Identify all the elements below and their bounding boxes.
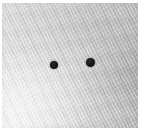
surface-dot-right [86, 58, 95, 67]
margin-top [0, 0, 144, 3]
surface-dot-left [50, 61, 58, 69]
margin-bottom [0, 128, 144, 132]
photo-frame [0, 0, 144, 132]
margin-right [138, 0, 144, 132]
film-grain-overlay [2, 3, 138, 128]
fabric-surface [2, 3, 138, 128]
margin-left [0, 0, 2, 132]
